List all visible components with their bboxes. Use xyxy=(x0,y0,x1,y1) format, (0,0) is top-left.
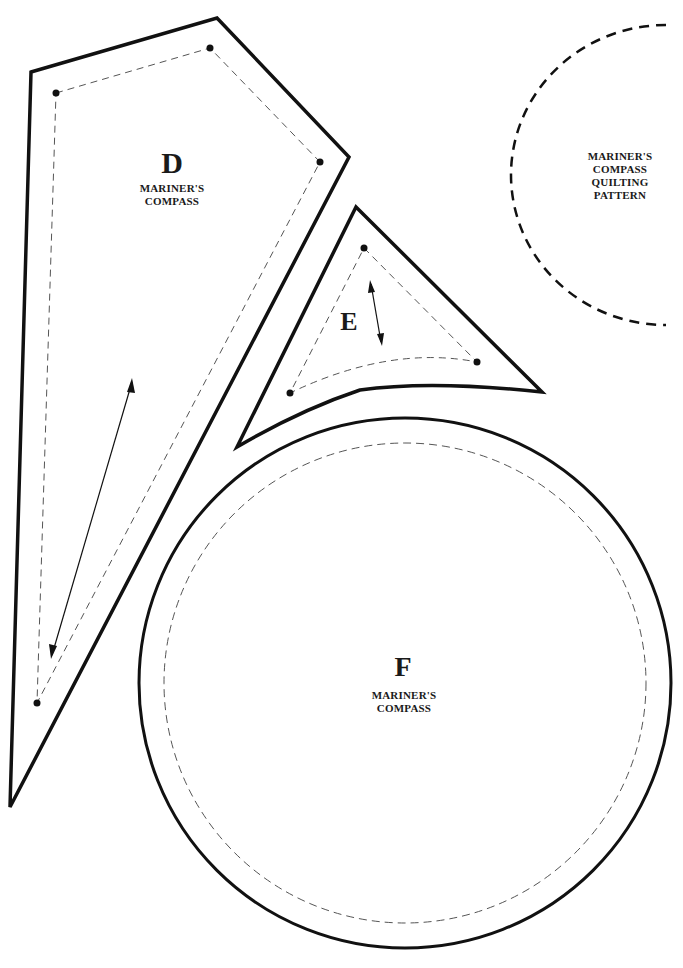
piece-d-letter: D xyxy=(150,148,194,178)
piece-d-label-line1: MARINER'S xyxy=(118,182,226,194)
piece-f-letter: F xyxy=(385,652,421,682)
piece-e-grain-arrow-icon xyxy=(368,280,384,346)
piece-e-cut-line xyxy=(237,207,542,447)
piece-f-label-line2: COMPASS xyxy=(350,702,458,714)
piece-e-seam-line xyxy=(290,248,477,393)
piece-f-seam-line xyxy=(164,443,646,923)
quilting-label-line1: MARINER'S xyxy=(566,150,674,162)
piece-d-cut-line xyxy=(10,18,349,807)
piece-d-grain-arrow-icon xyxy=(49,378,135,659)
quilting-label-line4: PATTERN xyxy=(566,189,674,201)
piece-d-corner-dots xyxy=(34,45,324,707)
quilting-pattern-arc xyxy=(511,25,666,325)
piece-f-label-line1: MARINER'S xyxy=(350,689,458,701)
piece-e-letter: E xyxy=(332,307,366,337)
piece-f-cut-line xyxy=(139,418,671,948)
quilting-label-line2: COMPASS xyxy=(566,163,674,175)
pattern-artwork xyxy=(0,0,683,968)
piece-d-label-line2: COMPASS xyxy=(118,195,226,207)
pattern-page: D MARINER'S COMPASS E F MARINER'S COMPAS… xyxy=(0,0,683,968)
quilting-label-line3: QUILTING xyxy=(566,176,674,188)
